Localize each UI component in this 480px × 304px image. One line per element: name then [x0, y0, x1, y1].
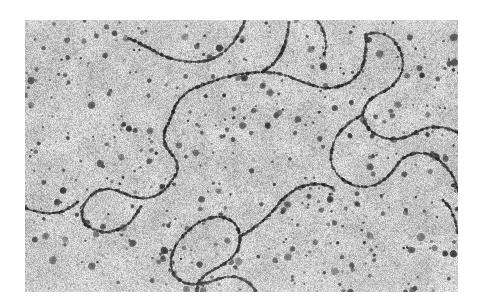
electron-micrograph-image — [25, 20, 458, 292]
electron-micrograph-frame — [25, 20, 458, 292]
micrograph-page — [0, 0, 480, 304]
